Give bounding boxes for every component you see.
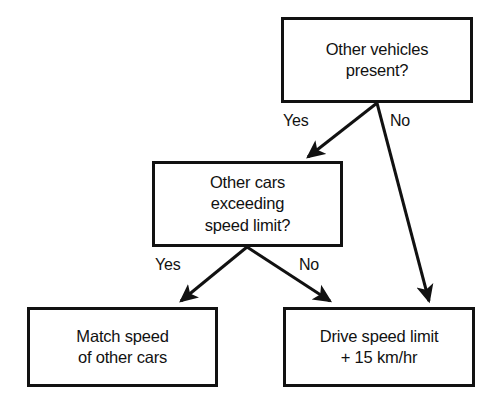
edge-label-mid-no: No bbox=[299, 256, 319, 274]
edge-top-yes-line bbox=[308, 103, 377, 157]
edge-label-top-yes: Yes bbox=[283, 112, 309, 130]
edge-label-top-no: No bbox=[390, 112, 410, 130]
edge-mid-yes-line bbox=[181, 247, 247, 301]
edge-top-no-line bbox=[377, 103, 429, 301]
node-other-cars-exceeding-speed-limit[interactable]: Other cars exceeding speed limit? bbox=[152, 161, 343, 247]
flowchart-canvas: Other vehicles present? Other cars excee… bbox=[0, 0, 495, 409]
node-drive-speed-limit-plus-15[interactable]: Drive speed limit + 15 km/hr bbox=[283, 307, 475, 387]
node-other-vehicles-present[interactable]: Other vehicles present? bbox=[281, 17, 473, 103]
node-match-speed-of-other-cars[interactable]: Match speed of other cars bbox=[27, 307, 218, 387]
edge-label-mid-yes: Yes bbox=[155, 256, 181, 274]
